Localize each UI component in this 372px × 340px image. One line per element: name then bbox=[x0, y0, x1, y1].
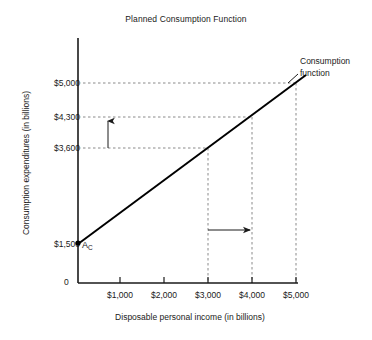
consumption-function-line bbox=[78, 75, 306, 244]
plot-area bbox=[0, 0, 372, 340]
autonomous-consumption-point bbox=[75, 240, 80, 245]
chart-figure: Planned Consumption Function Consumption… bbox=[0, 0, 372, 340]
